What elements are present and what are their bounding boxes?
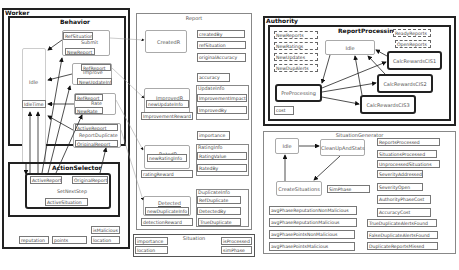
worker-is-malicious: isMalicious — [91, 226, 120, 234]
created-r-state: CreatedR — [145, 30, 187, 53]
improvement-reward-field: ImprovementReward — [141, 112, 193, 120]
worker-location: location — [91, 236, 120, 244]
new-update-info-field: newUpdateInfo — [146, 100, 189, 108]
improve-ref-report: RefReport — [81, 64, 111, 71]
report-title: Report — [137, 15, 251, 21]
rd-original-report: OriginalReport — [75, 140, 118, 147]
improve-new-update-info: NewUpdateInfo — [77, 78, 112, 85]
avg-points-nonmal: avgPhasePointsNonMalicious — [269, 230, 355, 239]
ref-duplicate-field: RefDuplicate — [197, 196, 241, 204]
importance-field: importance — [197, 131, 230, 140]
stat-severity-open: SeverityOpen — [377, 183, 423, 191]
queue-open-reports: OpenReports — [395, 40, 431, 48]
created-by-field: createdBy — [197, 30, 245, 38]
idle-time-field: IdleTime — [22, 100, 46, 108]
ref-situation-field: refSituation — [197, 41, 246, 49]
action-selector-title: ActionSelector — [52, 164, 102, 171]
preprocessing-state: PreProcessing — [275, 84, 322, 102]
worker-title: Worker — [5, 9, 29, 16]
accuracy-field: accuracy — [197, 73, 230, 82]
ans-active-situation: ActiveSituation — [45, 198, 88, 206]
queue-ready-reports: ReadyReports — [393, 29, 431, 37]
situation-importance: importance — [135, 237, 168, 245]
queue-new-updates: NewUpdates — [274, 53, 318, 61]
avg-rep-nonmal: avgPhaseReputationNonMalicious — [269, 206, 357, 215]
rating-reward-field: ratingReward — [141, 170, 193, 178]
situation-location: location — [135, 246, 168, 254]
situation-is-processed: isProcessed — [221, 237, 252, 245]
situation-sim-phase: simPhase — [221, 246, 252, 254]
detected-by-field: DetectedBy — [197, 207, 241, 215]
calc-rewards-cis3-state: CalcRewardsCIS3 — [360, 95, 416, 114]
new-rating-info-field: newRatingInfo — [147, 154, 187, 162]
stat-unprocessed-situations: UnprocessedSituations — [377, 160, 440, 168]
rate-ref-report: RefReport — [75, 94, 103, 101]
report-processing-title: ReportProcessing — [338, 27, 398, 34]
rated-by-field: RatedBy — [197, 164, 247, 172]
rate-new-rate: NewRate — [75, 107, 103, 114]
calc-rewards-cis2-state: CalcRewardsCIS2 — [377, 74, 433, 93]
stat-false-dup-alerts: FalseDuplicateAlertsFound — [367, 231, 438, 239]
calc-rewards-cis1-state: CalcRewardsCIS1 — [387, 51, 442, 70]
improvement-impact-field: ImprovementImpact — [197, 94, 247, 102]
new-duplicate-info-field: newDuplicateInfo — [145, 207, 189, 215]
sg-idle-state: Idle — [275, 138, 299, 154]
rating-value-field: RatingValue — [197, 152, 247, 160]
worker-points: points — [52, 236, 87, 244]
sg-cleanup-state: CleanUpAndStats — [320, 139, 365, 156]
submit-new-report: NewReport — [65, 48, 95, 55]
stat-reports-processed: ReportsProcessed — [377, 138, 440, 146]
true-duplicate-field: TrueDuplicate — [198, 218, 241, 226]
sg-sim-phase: SimPhase — [327, 185, 370, 193]
rd-active-report: ActiveReport — [75, 124, 118, 131]
submit-ref-situation: RefSituation — [63, 32, 93, 40]
sg-create-state: CreateSituations — [276, 181, 322, 196]
stat-severity-addressed: SeverityAddressed — [377, 170, 423, 178]
ans-original-report: OriginalReport — [72, 176, 108, 184]
avg-points-mal: avgPhasePointsMalicious — [269, 242, 355, 251]
queue-new-reports: NewReports — [274, 31, 318, 39]
ans-active-report: ActiveReport — [30, 176, 62, 184]
stat-accuracy-cost: AccuracyCost — [377, 208, 431, 217]
stat-dup-reports-missed: DuplicateReportsMissed — [367, 242, 438, 250]
stat-authority-phase-cost: AuthorityPhaseCost — [377, 195, 431, 204]
original-accuracy-field: originalAccuracy — [197, 53, 246, 62]
authority-title: Authority — [266, 17, 298, 24]
authority-cost-field: cost — [274, 106, 294, 115]
avg-rep-mal: avgPhaseReputationMalicious — [269, 218, 357, 227]
improved-by-field: ImprovedBy — [197, 106, 247, 114]
detection-reward-field: detectionReward — [141, 218, 193, 226]
update-info-group: UpdateInfo — [196, 85, 249, 120]
authority-idle-state: Idle — [325, 40, 375, 55]
worker-reputation: reputation — [19, 236, 49, 244]
queue-new-ratings: NewRatings — [274, 42, 318, 50]
queue-new-dup-alerts: NewDupAlerts — [274, 64, 318, 72]
stat-situations-processed: SituationsProcessed — [377, 150, 437, 158]
stat-true-dup-alerts: TrueDuplicateAlertsFound — [367, 219, 437, 227]
behavior-title: Behavior — [60, 18, 90, 25]
